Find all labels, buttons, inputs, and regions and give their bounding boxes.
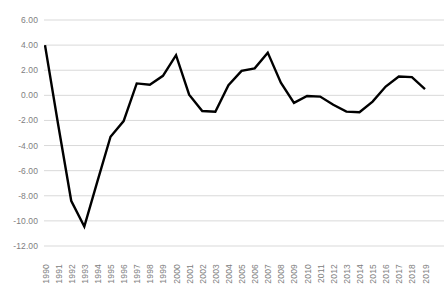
x-tick-label: 1990 bbox=[41, 264, 51, 284]
x-tick-label: 2019 bbox=[421, 264, 431, 284]
x-tick-label: 1998 bbox=[145, 264, 155, 284]
x-tick-label: 2013 bbox=[342, 264, 352, 284]
x-tick-label: 1993 bbox=[80, 264, 90, 284]
x-tick-label: 2004 bbox=[224, 264, 234, 284]
x-tick-label: 1991 bbox=[54, 264, 64, 284]
x-tick-label: 1995 bbox=[106, 264, 116, 284]
x-tick-label: 2017 bbox=[394, 264, 404, 284]
x-tick-label: 2011 bbox=[316, 264, 326, 283]
y-tick-label: -8.00 bbox=[18, 191, 38, 201]
y-tick-label: -6.00 bbox=[18, 166, 38, 176]
y-tick-label: -12.00 bbox=[13, 241, 38, 251]
x-tick-label: 2010 bbox=[303, 264, 313, 284]
x-axis: 1990199119921993199419951996199719981999… bbox=[44, 262, 444, 302]
x-tick-label: 2009 bbox=[289, 264, 299, 284]
x-tick-label: 2007 bbox=[263, 264, 273, 284]
gridlines bbox=[44, 20, 444, 246]
x-tick-label: 1997 bbox=[132, 264, 142, 284]
y-tick-label: 2.00 bbox=[21, 65, 38, 75]
data-series-line bbox=[45, 45, 425, 226]
x-tick-label: 2002 bbox=[198, 264, 208, 284]
x-tick-label: 1999 bbox=[158, 264, 168, 284]
x-tick-label: 2014 bbox=[355, 264, 365, 284]
y-tick-label: 6.00 bbox=[21, 15, 38, 25]
line-chart: 6.004.002.000.00-2.00-4.00-6.00-8.00-10.… bbox=[0, 0, 444, 302]
y-tick-label: -4.00 bbox=[18, 141, 38, 151]
y-axis: 6.004.002.000.00-2.00-4.00-6.00-8.00-10.… bbox=[0, 0, 44, 302]
y-tick-label: -10.00 bbox=[13, 216, 38, 226]
x-tick-label: 1992 bbox=[67, 264, 77, 284]
y-tick-label: 0.00 bbox=[21, 90, 38, 100]
x-tick-label: 2006 bbox=[250, 264, 260, 284]
x-tick-label: 1996 bbox=[119, 264, 129, 284]
x-tick-label: 2001 bbox=[185, 264, 195, 284]
x-tick-label: 2016 bbox=[381, 264, 391, 284]
x-tick-label: 2008 bbox=[276, 264, 286, 284]
x-tick-label: 2012 bbox=[329, 264, 339, 284]
x-tick-label: 2005 bbox=[237, 264, 247, 284]
y-tick-label: -2.00 bbox=[18, 115, 38, 125]
x-tick-label: 2000 bbox=[172, 264, 182, 284]
y-tick-label: 4.00 bbox=[21, 40, 38, 50]
plot-area bbox=[44, 0, 444, 262]
x-tick-label: 2018 bbox=[407, 264, 417, 284]
x-tick-label: 1994 bbox=[93, 264, 103, 284]
series-line-1 bbox=[45, 45, 425, 226]
x-tick-label: 2015 bbox=[368, 264, 378, 284]
chart-canvas bbox=[44, 0, 444, 262]
x-tick-label: 2003 bbox=[211, 264, 221, 284]
